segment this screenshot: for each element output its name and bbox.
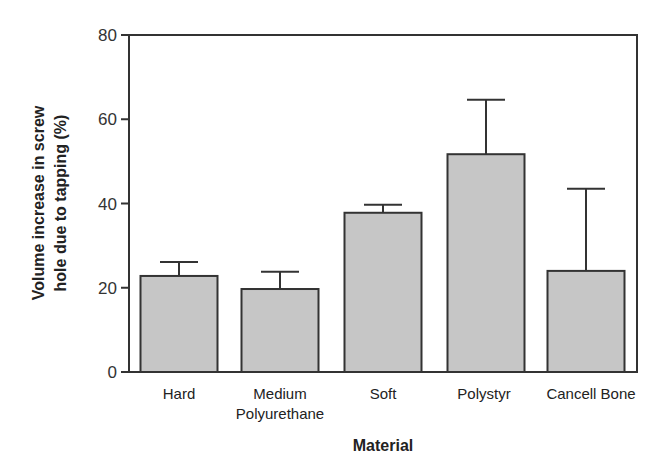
bar-group — [345, 205, 422, 372]
y-tick-label: 0 — [108, 363, 117, 382]
y-tick-label: 60 — [98, 110, 117, 129]
x-axis-category-labels: HardMediumPolyurethaneSoftPolystyrCancel… — [163, 385, 636, 422]
y-axis-title-line2: hole due to tapping (%) — [52, 115, 69, 292]
x-category-label: Medium — [253, 385, 306, 402]
bar — [345, 213, 422, 372]
bar — [448, 154, 525, 372]
y-axis-ticks: 020406080 — [98, 26, 129, 382]
bar — [242, 289, 319, 372]
bars — [141, 100, 625, 372]
bar-chart: 020406080 HardMediumPolyurethaneSoftPoly… — [0, 0, 663, 468]
bar-group — [141, 262, 218, 372]
bar-group — [448, 100, 525, 372]
bar-group — [548, 189, 625, 372]
x-category-label: Hard — [163, 385, 196, 402]
bar-group — [242, 272, 319, 372]
x-axis-title: Material — [353, 437, 413, 454]
y-tick-label: 40 — [98, 195, 117, 214]
x-category-label: Polystyr — [457, 385, 510, 402]
y-tick-label: 80 — [98, 26, 117, 45]
bar — [548, 271, 625, 372]
x-category-label: Soft — [370, 385, 398, 402]
x-category-label: Cancell Bone — [546, 385, 635, 402]
bar — [141, 276, 218, 372]
x-category-sublabel: Polyurethane — [236, 405, 324, 422]
y-axis-title-line1: Volume increase in screw — [30, 105, 47, 300]
y-tick-label: 20 — [98, 279, 117, 298]
